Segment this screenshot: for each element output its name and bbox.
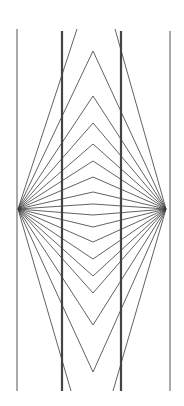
top-chevron — [18, 161, 166, 209]
diamond-chevrons — [18, 51, 166, 372]
bottom-chevron — [18, 209, 166, 293]
top-chevron — [18, 123, 166, 209]
outer-ray-line — [18, 29, 77, 209]
outer-rays — [18, 29, 166, 391]
top-chevron — [18, 204, 166, 209]
outer-ray-line — [115, 29, 166, 209]
illusion-figure — [0, 0, 184, 406]
vertical-lines — [17, 29, 170, 391]
